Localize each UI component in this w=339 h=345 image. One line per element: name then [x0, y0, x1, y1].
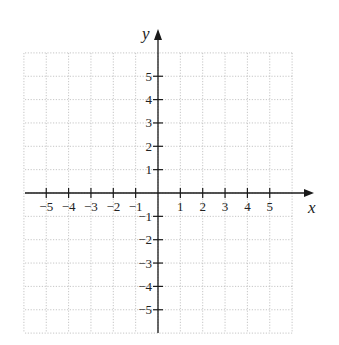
x-tick-label: 2 — [199, 199, 206, 214]
coordinate-plane: −5−4−3−2−112345−5−4−3−2−112345 x y — [0, 0, 339, 345]
y-tick-label: −4 — [138, 279, 152, 294]
x-tick-label: 4 — [244, 199, 251, 214]
x-axis-arrow-icon — [304, 189, 314, 197]
y-tick-label: 3 — [146, 115, 153, 130]
x-tick-label: −4 — [62, 199, 76, 214]
y-tick-label: −5 — [138, 302, 152, 317]
x-tick-label: 1 — [177, 199, 184, 214]
x-tick-label: 5 — [267, 199, 274, 214]
y-axis-label: y — [140, 24, 150, 43]
y-tick-label: −2 — [138, 232, 152, 247]
y-tick-label: 4 — [146, 92, 153, 107]
axes — [25, 29, 314, 333]
y-tick-label: 5 — [146, 69, 153, 84]
y-tick-label: 2 — [146, 139, 153, 154]
y-axis-arrow-icon — [154, 29, 162, 40]
y-tick-label: −1 — [138, 209, 152, 224]
x-tick-label: 3 — [222, 199, 229, 214]
x-tick-label: −3 — [84, 199, 98, 214]
x-axis-label: x — [307, 198, 316, 217]
x-tick-label: −2 — [106, 199, 120, 214]
y-tick-label: −3 — [138, 256, 152, 271]
y-tick-label: 1 — [146, 162, 153, 177]
x-tick-label: −5 — [39, 199, 53, 214]
